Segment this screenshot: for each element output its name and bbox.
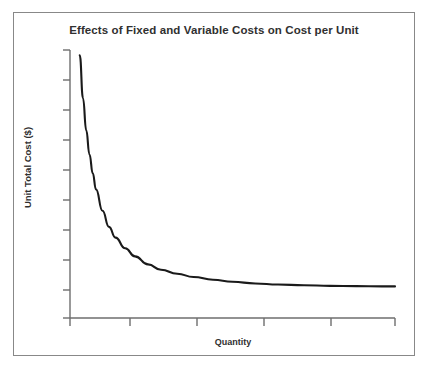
x-axis-ticks [70,318,395,326]
cost-curve-line [80,55,395,286]
y-axis-ticks [63,50,70,318]
plot-area [0,0,428,372]
x-axis-label: Quantity [70,337,396,347]
chart-figure: Effects of Fixed and Variable Costs on C… [0,0,428,372]
y-axis-label: Unit Total Cost ($) [22,108,33,228]
